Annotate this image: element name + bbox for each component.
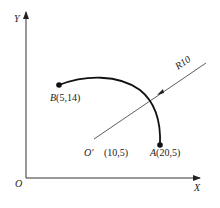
origin-label: O: [15, 178, 22, 189]
radius-label: R10: [172, 54, 192, 73]
point-b-dot: [56, 82, 62, 88]
center-coords-label: (10,5): [104, 147, 128, 159]
arc-diagram: Y X O B(5,14) A(20,5) O' (10,5) R10: [0, 0, 220, 208]
center-label: O': [84, 147, 94, 158]
point-b-label: B(5,14): [50, 92, 80, 104]
point-a-label: A(20,5): [149, 147, 180, 159]
arc-path: [59, 78, 160, 145]
x-axis-label: X: [193, 182, 201, 193]
y-axis-label: Y: [14, 13, 21, 24]
